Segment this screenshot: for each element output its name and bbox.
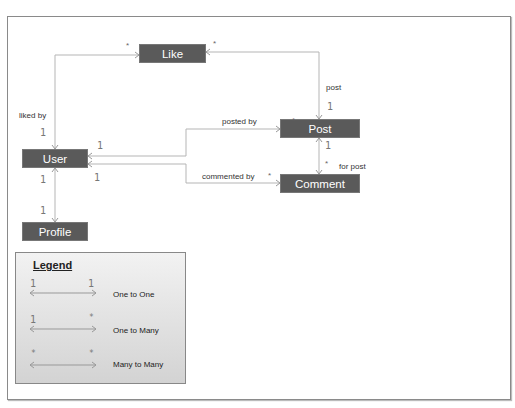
legend-arrows — [16, 253, 187, 385]
entity-user[interactable]: User — [22, 149, 88, 168]
mult-post-comment: 1 — [325, 140, 331, 151]
mult-comment-post: * — [325, 159, 328, 168]
entity-like-label: Like — [162, 48, 183, 60]
connector-user-like — [55, 55, 139, 149]
entity-comment[interactable]: Comment — [280, 174, 360, 193]
mult-user-profile: 1 — [40, 174, 46, 185]
label-liked-by: liked by — [19, 111, 46, 120]
entity-user-label: User — [43, 153, 67, 165]
mult-user-comment: 1 — [94, 172, 100, 183]
connector-user-post — [88, 129, 280, 156]
label-post: post — [326, 83, 341, 92]
legend: Legend 1 1 One to One 1 * One to Many * … — [15, 252, 186, 384]
mult-user-like: 1 — [40, 127, 46, 138]
mult-post-like: 1 — [327, 101, 333, 112]
entity-comment-label: Comment — [295, 178, 345, 190]
mult-post-user: * — [292, 116, 295, 125]
mult-like-post-side: * — [213, 39, 216, 48]
entity-profile[interactable]: Profile — [22, 222, 88, 241]
mult-comment-user: * — [268, 171, 271, 180]
mult-profile-user: 1 — [40, 205, 46, 216]
entity-profile-label: Profile — [39, 226, 72, 238]
label-for-post: for post — [339, 162, 366, 171]
label-posted-by: posted by — [222, 117, 257, 126]
entity-like[interactable]: Like — [139, 44, 206, 63]
label-commented-by: commented by — [202, 172, 254, 181]
connector-like-post — [206, 52, 319, 119]
entity-post-label: Post — [308, 123, 331, 135]
mult-like-user-side: * — [126, 41, 129, 50]
mult-user-post: 1 — [97, 140, 103, 151]
